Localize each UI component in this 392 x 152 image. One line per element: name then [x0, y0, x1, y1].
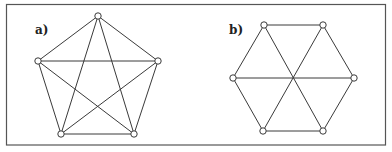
- node-bottom-left: [260, 128, 266, 134]
- figure-frame: [7, 5, 386, 146]
- node-bottom-right: [131, 131, 137, 137]
- edge-top-right: [98, 16, 158, 61]
- edge-left-bottom-right: [38, 61, 134, 134]
- edge-top-bottom-left: [61, 16, 98, 134]
- node-left: [35, 58, 41, 64]
- edge-right-bottom-right: [323, 78, 354, 131]
- panel-b: b): [229, 22, 357, 134]
- graph-figure: a) b): [0, 0, 392, 152]
- panel-a-label: a): [35, 23, 48, 37]
- node-right: [351, 75, 357, 81]
- edge-right-bottom-left: [61, 61, 158, 134]
- panel-a-edges: [38, 16, 158, 134]
- edge-left-bottom-left: [38, 61, 61, 134]
- panel-b-label: b): [229, 23, 243, 37]
- edge-right-bottom-right: [134, 61, 158, 134]
- node-top-left: [261, 22, 267, 28]
- node-top-right: [320, 22, 326, 28]
- node-right: [155, 58, 161, 64]
- node-bottom-left: [58, 131, 64, 137]
- panel-b-edges: [233, 25, 354, 131]
- node-bottom-right: [320, 128, 326, 134]
- node-left: [230, 75, 236, 81]
- panel-a-nodes: [35, 13, 161, 137]
- edge-top-right-right: [323, 25, 354, 78]
- edge-bottom-left-left: [233, 78, 263, 131]
- node-top: [95, 13, 101, 19]
- edge-top-bottom-right: [98, 16, 134, 134]
- panel-a: a): [35, 13, 161, 137]
